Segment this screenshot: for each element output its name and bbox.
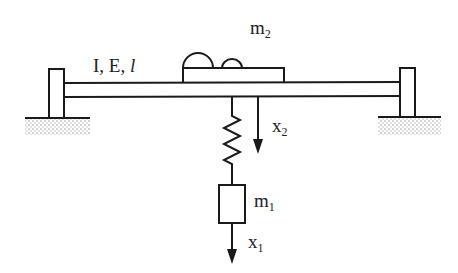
beam	[64, 82, 400, 97]
x1-arrowhead	[227, 249, 237, 264]
beam-properties-label: I, E, l	[93, 56, 135, 75]
m2-label: m2	[250, 18, 271, 40]
left-ground	[25, 118, 90, 135]
beam-mass-spring-diagram: I, E, l m2 m1 x2 x1	[0, 0, 458, 273]
x2-label: x2	[272, 116, 288, 138]
mass-m1	[219, 185, 245, 223]
left-support	[49, 69, 64, 118]
spring	[224, 97, 240, 185]
right-support	[400, 68, 415, 117]
mass-m2	[183, 53, 284, 82]
m1-label: m1	[254, 191, 275, 213]
diagram-graphics	[0, 0, 458, 273]
x1-label: x1	[248, 232, 264, 254]
right-ground	[378, 117, 441, 135]
x2-arrowhead	[253, 139, 263, 154]
